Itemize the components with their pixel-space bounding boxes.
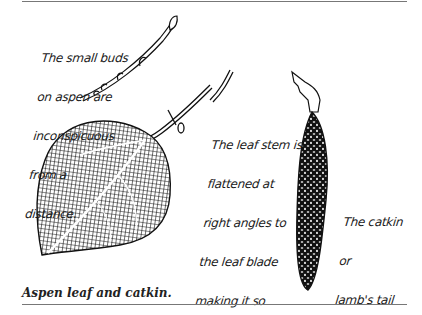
figure-caption: Aspen leaf and catkin. <box>22 286 172 300</box>
bottom-rule <box>22 304 407 305</box>
